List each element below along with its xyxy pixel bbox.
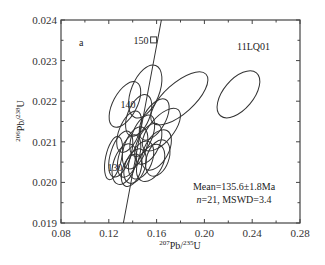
x-axis-label: 207Pb/235U: [159, 239, 201, 251]
error-ellipses: [101, 60, 268, 189]
concordia-chart: 150140130 0.080.120.160.200.240.280.0190…: [0, 0, 325, 265]
x-tick-label: 0.24: [243, 227, 263, 239]
y-tick-label: 0.024: [32, 14, 57, 26]
concordia-age-label: 150: [134, 35, 149, 46]
y-tick-label: 0.023: [32, 55, 57, 67]
y-tick-label: 0.021: [32, 136, 57, 148]
x-tick-label: 0.16: [147, 227, 167, 239]
error-ellipse: [209, 63, 268, 125]
concordia-curve: 150140130: [108, 20, 162, 223]
panel-label: a: [79, 37, 84, 48]
concordia-age-marker: [151, 37, 157, 43]
y-tick-label: 0.019: [32, 217, 57, 229]
y-tick-label: 0.022: [32, 95, 57, 107]
mean-age-annotation: Mean=135.6±1.8Ma: [193, 181, 276, 192]
x-tick-label: 0.12: [99, 227, 118, 239]
y-axis-label: 206Pb/238U: [14, 99, 26, 141]
y-tick-label: 0.020: [32, 176, 57, 188]
concordia-age-label: 140: [120, 99, 135, 110]
sample-label: 11LQ01: [237, 41, 270, 52]
n-mswd-annotation: n=21, MSWD=3.4: [197, 194, 272, 205]
x-tick-label: 0.20: [195, 227, 215, 239]
x-tick-label: 0.28: [290, 227, 310, 239]
